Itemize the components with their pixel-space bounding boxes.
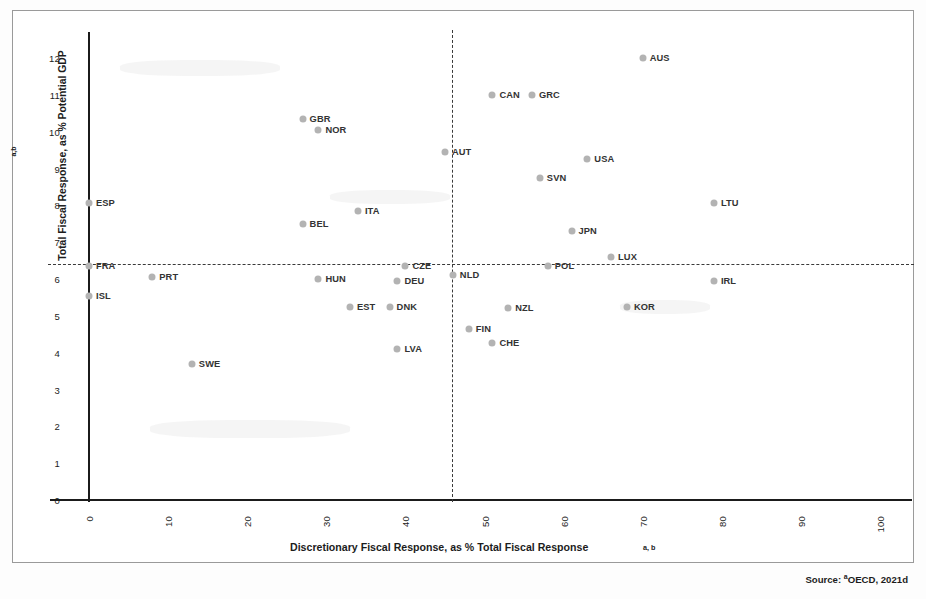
figure-border (12, 10, 914, 563)
source-prefix: Source: (805, 574, 841, 585)
source-note: Source: aOECD, 2021d (805, 573, 908, 585)
source-text: OECD, 2021d (848, 574, 908, 585)
figure-scatter-fiscal-response: 0123456789101112 0102030405060708090100 … (0, 0, 926, 599)
